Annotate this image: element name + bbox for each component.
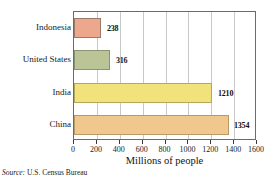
tick-label-1600: 1600	[248, 145, 264, 154]
bar-row-india: 1210	[74, 77, 255, 109]
tick-mark-800	[165, 140, 166, 144]
tick-label-800: 800	[159, 145, 171, 154]
tick-mark-1200	[210, 140, 211, 144]
tick-mark-1400	[233, 140, 234, 144]
tick-label-400: 400	[113, 145, 125, 154]
tick-mark-1600	[256, 140, 257, 144]
tick-label-1400: 1400	[225, 145, 241, 154]
bar-united-states[interactable]	[74, 50, 110, 70]
bar-value-china: 1354	[234, 120, 249, 129]
category-label-india: India	[1, 87, 71, 97]
tick-mark-600	[142, 140, 143, 144]
bar-india[interactable]	[74, 83, 212, 103]
bar-china[interactable]	[74, 115, 229, 135]
bar-value-indonesia: 238	[107, 24, 118, 33]
bar-row-united-states: 316	[74, 44, 255, 76]
category-label-indonesia: Indonesia	[1, 22, 71, 32]
tick-mark-200	[96, 140, 97, 144]
tick-label-1000: 1000	[179, 145, 195, 154]
bar-indonesia[interactable]	[74, 18, 101, 38]
category-axis-labels: Indonesia United States India China	[0, 11, 71, 140]
bar-chart-figure: Indonesia United States India China 238 …	[0, 0, 274, 181]
source-prefix: Source:	[2, 168, 25, 177]
tick-label-1200: 1200	[202, 145, 218, 154]
tick-label-0: 0	[71, 145, 75, 154]
category-label-china: China	[1, 119, 71, 129]
tick-mark-1000	[187, 140, 188, 144]
source-note: Source: U.S. Census Bureau	[2, 168, 87, 177]
bar-value-india: 1210	[218, 88, 233, 97]
plot-area: 238 316 1210 1354	[73, 11, 256, 140]
x-axis-title: Millions of people	[73, 155, 256, 166]
tick-mark-0	[73, 140, 74, 144]
bar-row-china: 1354	[74, 109, 255, 141]
category-label-united-states: United States	[1, 54, 71, 64]
tick-label-200: 200	[90, 145, 102, 154]
tick-label-600: 600	[136, 145, 148, 154]
bar-row-indonesia: 238	[74, 12, 255, 44]
source-text: U.S. Census Bureau	[27, 168, 87, 177]
bar-value-united-states: 316	[116, 56, 127, 65]
tick-mark-400	[119, 140, 120, 144]
